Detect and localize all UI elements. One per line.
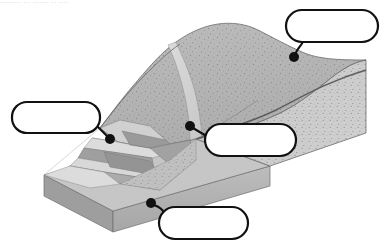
callout-2[interactable] — [12, 102, 115, 144]
callout-3-dot — [185, 121, 195, 131]
slump-block-diagram — [0, 0, 385, 249]
figure-canvas: ......... ... ....... .. .... — [0, 0, 385, 249]
callout-1-dot — [289, 52, 299, 62]
callout-3-box[interactable] — [205, 124, 296, 156]
callout-2-box[interactable] — [12, 102, 100, 133]
callout-4-box[interactable] — [159, 207, 248, 239]
callout-1-box[interactable] — [286, 10, 378, 42]
callout-2-dot — [105, 134, 115, 144]
callout-4-dot — [146, 198, 156, 208]
